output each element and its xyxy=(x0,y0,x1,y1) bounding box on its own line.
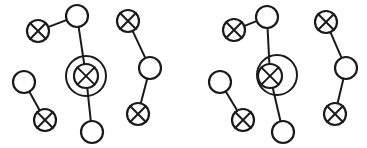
graph-node[interactable] xyxy=(117,10,139,32)
node-body xyxy=(13,71,35,93)
graph-node[interactable] xyxy=(272,121,294,143)
node-body xyxy=(256,6,278,28)
node-body xyxy=(81,121,103,143)
graph-node[interactable] xyxy=(315,11,337,33)
graph-node[interactable] xyxy=(34,109,56,131)
graph-edge xyxy=(47,20,67,28)
graph-node[interactable] xyxy=(81,121,103,143)
graph-edge xyxy=(225,91,238,112)
graph-node[interactable] xyxy=(232,109,254,131)
node-body xyxy=(66,5,88,27)
diagram-canvas xyxy=(0,0,367,148)
node-body xyxy=(272,121,294,143)
graph-edge xyxy=(330,31,342,59)
graph-edge xyxy=(337,78,343,105)
node-body xyxy=(335,57,357,79)
graph-node[interactable] xyxy=(324,103,346,125)
graph-edge xyxy=(78,26,84,65)
graph-node[interactable] xyxy=(256,6,278,28)
graph-node[interactable] xyxy=(223,19,245,41)
graph-edge xyxy=(268,27,270,65)
graph-edge xyxy=(243,21,257,27)
graph-node[interactable] xyxy=(335,57,357,79)
graph-node[interactable] xyxy=(257,55,297,95)
graph-edge xyxy=(272,87,280,123)
graph-node[interactable] xyxy=(27,20,49,42)
graph-diagram xyxy=(0,0,367,148)
graph-node[interactable] xyxy=(66,56,106,96)
node-body xyxy=(209,71,231,93)
graph-edge xyxy=(87,87,91,122)
graph-node[interactable] xyxy=(66,5,88,27)
graph-node[interactable] xyxy=(13,71,35,93)
graph-edge xyxy=(132,30,146,59)
graph-edge xyxy=(141,78,148,105)
graph-node[interactable] xyxy=(209,71,231,93)
node-body xyxy=(139,57,161,79)
graph-node[interactable] xyxy=(139,57,161,79)
graph-node[interactable] xyxy=(127,103,149,125)
nodes-layer xyxy=(13,5,357,143)
graph-edge xyxy=(29,91,40,111)
